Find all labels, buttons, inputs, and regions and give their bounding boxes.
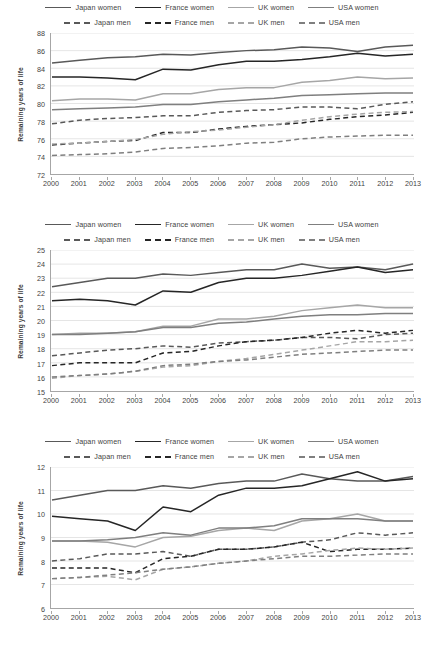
legend-item-usa-women[interactable]: USA women [308,220,378,229]
legend-item-japan-women[interactable]: Japan women [45,437,121,446]
x-axis-tick-label: 2003 [127,396,143,405]
x-axis-tick-label: 2004 [154,396,170,405]
x-axis-tick-label: 2001 [71,396,87,405]
legend-item-uk-men[interactable]: UK men [228,452,285,461]
y-axis-tick-label: 7 [41,581,48,590]
legend-item-japan-women[interactable]: Japan women [45,3,121,12]
x-axis-tick-label: 2008 [266,396,282,405]
legend-item-uk-women[interactable]: UK women [228,220,294,229]
legend-item-japan-men[interactable]: Japan men [64,235,130,244]
legend-row: Japan womenFrance womenUK womenUSA women [0,0,424,15]
legend-item-label: France men [175,452,214,461]
x-axis-tick-label: 2007 [238,179,254,188]
legend-row: Japan womenFrance womenUK womenUSA women [0,217,424,232]
legend-swatch-icon [64,456,90,458]
x-axis-tick-label: 2003 [127,613,143,622]
x-axis-tick-label: 2008 [266,179,282,188]
legend-item-label: France men [175,235,214,244]
legend-swatch-icon [299,239,325,241]
legend-item-uk-women[interactable]: UK women [228,3,294,12]
legend-item-label: Japan men [94,235,130,244]
legend-item-label: UK women [258,437,294,446]
legend-item-usa-men[interactable]: USA men [299,18,360,27]
x-axis-tick-label: 2012 [377,179,393,188]
legend-swatch-icon [228,456,254,458]
x-axis-tick-label: 2001 [71,179,87,188]
x-axis-tick-label: 2008 [266,613,282,622]
legend-swatch-icon [228,224,254,225]
x-axis-ticks: 2000200120022003200420052006200720082009… [50,177,414,193]
legend-swatch-icon [45,7,71,8]
y-axis-tick-label: 16 [37,373,48,382]
y-axis-tick-label: 78 [37,117,48,126]
legend-item-label: France women [165,220,214,229]
y-axis-tick-label: 12 [37,463,48,472]
legend-item-france-men[interactable]: France men [145,452,214,461]
legend-item-usa-men[interactable]: USA men [299,235,360,244]
legend-item-france-men[interactable]: France men [145,18,214,27]
y-axis-tick-label: 74 [37,153,48,162]
y-axis-title: Remaining years of life [14,33,26,175]
y-axis-tick-label: 8 [41,557,48,566]
y-axis-title-text: Remaining years of life [17,284,24,359]
x-axis-tick-label: 2013 [405,179,421,188]
legend-item-label: France men [175,18,214,27]
x-axis-tick-label: 2000 [43,179,59,188]
legend-swatch-icon [45,441,71,442]
legend-item-label: Japan men [94,18,130,27]
legend-item-uk-men[interactable]: UK men [228,18,285,27]
legend-swatch-icon [228,22,254,24]
legend-item-uk-women[interactable]: UK women [228,437,294,446]
x-axis-tick-label: 2013 [405,396,421,405]
legend-swatch-icon [45,224,71,225]
x-axis-tick-label: 2004 [154,179,170,188]
legend-item-france-women[interactable]: France women [135,220,214,229]
x-axis-tick-label: 2003 [127,179,143,188]
x-axis-tick-label: 2013 [405,613,421,622]
legend-item-label: Japan men [94,452,130,461]
x-axis-tick-label: 2009 [294,396,310,405]
legend-item-japan-men[interactable]: Japan men [64,18,130,27]
legend-item-label: USA men [329,18,360,27]
legend-swatch-icon [145,239,171,241]
legend-item-japan-men[interactable]: Japan men [64,452,130,461]
legend-item-uk-men[interactable]: UK men [228,235,285,244]
x-axis-tick-label: 2009 [294,613,310,622]
x-axis-tick-label: 2005 [182,396,198,405]
legend-swatch-icon [228,239,254,241]
x-axis-tick-label: 2007 [238,613,254,622]
legend-item-usa-women[interactable]: USA women [308,437,378,446]
legend-item-label: USA men [329,235,360,244]
y-axis-tick-label: 19 [37,331,48,340]
legend-item-france-women[interactable]: France women [135,3,214,12]
legend-item-label: UK men [258,18,285,27]
legend-item-label: UK men [258,452,285,461]
x-axis-tick-label: 2005 [182,179,198,188]
legend-item-france-women[interactable]: France women [135,437,214,446]
legend-item-japan-women[interactable]: Japan women [45,220,121,229]
legend-swatch-icon [135,7,161,8]
y-axis-tick-label: 24 [37,260,48,269]
x-axis-tick-label: 2010 [322,396,338,405]
y-axis-tick-label: 23 [37,274,48,283]
y-axis-tick-label: 84 [37,64,48,73]
y-axis-tick-label: 25 [37,246,48,255]
x-axis-tick-label: 2005 [182,613,198,622]
x-axis-tick-label: 2006 [210,179,226,188]
y-axis-tick-label: 82 [37,82,48,91]
legend-item-label: USA women [338,3,378,12]
legend-item-usa-women[interactable]: USA women [308,3,378,12]
chart-legend-1: Japan womenFrance womenUK womenUSA women… [0,0,424,30]
y-axis-tick-label: 11 [38,486,48,495]
y-axis-tick-label: 18 [37,345,48,354]
x-axis-tick-label: 2001 [71,613,87,622]
chart-panel-3: Japan womenFrance womenUK womenUSA women… [0,434,424,651]
legend-item-france-men[interactable]: France men [145,235,214,244]
legend-swatch-icon [308,441,334,442]
legend-row: Japan menFrance menUK menUSA men [0,449,424,464]
legend-item-label: UK women [258,3,294,12]
plot-area-1 [50,33,414,175]
legend-swatch-icon [299,456,325,458]
legend-item-usa-men[interactable]: USA men [299,452,360,461]
y-axis-tick-label: 10 [37,510,48,519]
